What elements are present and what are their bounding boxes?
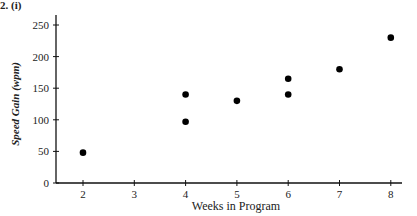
figure-label: 2. (i) [0,0,22,12]
x-tick-label: 6 [285,188,291,200]
data-point [285,75,292,82]
data-points [80,34,394,156]
x-tick-label: 4 [183,188,189,200]
scatter-chart: 2. (i) 050100150200250 2345678 Weeks in … [0,0,417,216]
data-point [336,66,343,73]
data-point [182,118,189,125]
y-axis-title: Speed Gain (wpm) [9,62,22,146]
x-tick-label: 2 [80,188,86,200]
data-point [234,98,241,105]
data-point [80,149,87,156]
x-tick-label: 8 [388,188,394,200]
data-point [388,34,395,41]
x-tick-label: 7 [337,188,343,200]
data-point [285,91,292,98]
data-point [182,91,189,98]
y-tick-label: 250 [33,19,50,31]
x-axis-title: Weeks in Program [192,199,281,213]
y-tick-label: 100 [33,114,50,126]
axes [56,15,402,183]
y-tick-label: 200 [33,51,50,63]
y-tick-label: 150 [33,82,50,94]
y-tick-label: 0 [44,177,50,189]
y-tick-label: 50 [38,145,50,157]
y-axis-ticks: 050100150200250 [33,19,60,189]
x-tick-label: 3 [132,188,138,200]
